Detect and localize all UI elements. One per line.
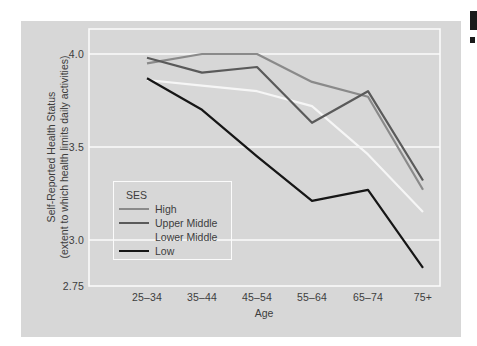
legend-item-upper-middle: Upper Middle <box>114 216 231 230</box>
legend-title: SES <box>114 188 231 202</box>
legend-box: SES High Upper Middle Lower Middle Low <box>113 181 232 260</box>
legend-swatch-high <box>119 208 149 210</box>
y-axis-title-line2: (extent to which health limits daily act… <box>58 27 71 287</box>
x-tick-35-44: 35–44 <box>177 291 227 303</box>
x-tick-55-64: 55–64 <box>287 291 337 303</box>
y-tick-4.0: 4.0 <box>39 48 84 60</box>
legend-label-low: Low <box>155 244 174 258</box>
cropped-print-mark-bottom <box>470 37 475 43</box>
figure-panel: Self-Reported Health Status (extent to w… <box>21 21 461 337</box>
legend-label-lower-middle: Lower Middle <box>155 230 217 244</box>
legend-swatch-lower-middle <box>119 236 149 238</box>
legend-item-high: High <box>114 202 231 216</box>
x-tick-65-74: 65–74 <box>343 291 393 303</box>
legend-swatch-upper-middle <box>119 222 149 224</box>
y-tick-2.75: 2.75 <box>39 280 84 292</box>
legend-swatch-low <box>119 250 149 252</box>
y-axis-title-line1: Self-Reported Health Status <box>45 27 58 287</box>
page: { "figure": { "y_axis": { "title_line1":… <box>0 0 477 346</box>
legend-item-low: Low <box>114 244 231 258</box>
y-tick-3.0: 3.0 <box>39 234 84 246</box>
y-axis-title: Self-Reported Health Status (extent to w… <box>45 27 71 287</box>
legend-label-upper-middle: Upper Middle <box>155 216 217 230</box>
cropped-print-mark-top <box>470 11 477 30</box>
legend-item-lower-middle: Lower Middle <box>114 230 231 244</box>
x-tick-25-34: 25–34 <box>122 291 172 303</box>
x-tick-75plus: 75+ <box>398 291 448 303</box>
y-tick-3.5: 3.5 <box>39 141 84 153</box>
x-axis-title: Age <box>239 307 289 320</box>
legend-label-high: High <box>155 202 177 216</box>
chart-plot-area <box>21 21 461 337</box>
x-tick-45-54: 45–54 <box>232 291 282 303</box>
